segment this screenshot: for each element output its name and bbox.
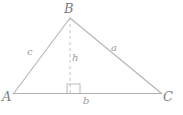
altitude-label-h: h <box>72 53 78 63</box>
side-label-a: a <box>111 43 117 53</box>
side-a-line <box>70 18 161 93</box>
side-label-c: c <box>27 47 33 57</box>
triangle-diagram: A B C c a h b <box>0 0 183 115</box>
vertex-label-c: C <box>163 90 173 103</box>
side-c-line <box>14 18 70 93</box>
triangle-graphic <box>0 0 183 115</box>
side-label-b: b <box>83 96 89 106</box>
right-angle-marker <box>67 84 80 93</box>
vertex-label-b: B <box>64 2 74 15</box>
vertex-label-a: A <box>2 90 11 103</box>
